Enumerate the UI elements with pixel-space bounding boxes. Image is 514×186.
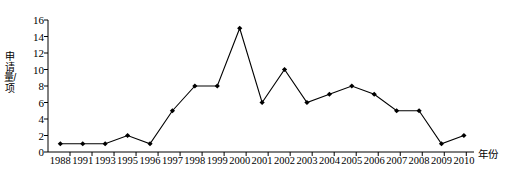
data-point-marker bbox=[237, 26, 242, 31]
plot-area bbox=[0, 0, 514, 186]
data-point-marker bbox=[461, 133, 466, 138]
data-point-marker bbox=[80, 141, 85, 146]
data-point-marker bbox=[349, 83, 354, 88]
y-axis-ticks bbox=[44, 20, 48, 152]
data-series-line bbox=[60, 28, 464, 144]
data-point-marker bbox=[58, 141, 63, 146]
data-point-marker bbox=[125, 133, 130, 138]
data-point-marker bbox=[215, 83, 220, 88]
x-axis-ticks bbox=[70, 152, 466, 156]
chart-container: 申请量/项 0246810121416 19881991199319951996… bbox=[0, 0, 514, 186]
data-point-markers bbox=[58, 26, 467, 147]
data-point-marker bbox=[103, 141, 108, 146]
data-point-marker bbox=[327, 92, 332, 97]
axis-lines bbox=[48, 20, 474, 152]
